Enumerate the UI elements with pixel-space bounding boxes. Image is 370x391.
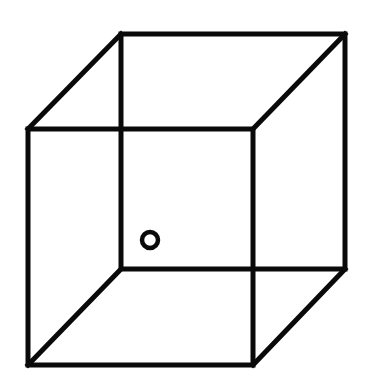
necker-cube-diagram <box>0 0 370 391</box>
edge-top-left <box>28 34 121 129</box>
circle-marker <box>142 232 158 248</box>
edge-top-right <box>253 34 345 129</box>
edge-bottom-right <box>253 269 345 365</box>
edge-bottom-left <box>28 269 121 365</box>
